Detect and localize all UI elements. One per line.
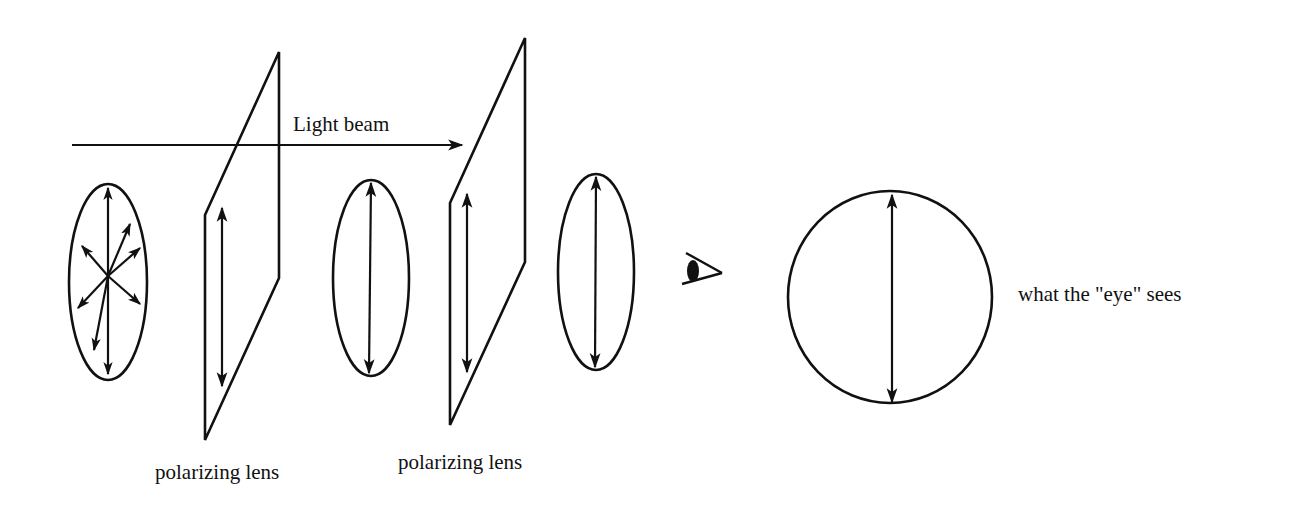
polarized-light-ellipse-1 [333,180,409,376]
light-beam-label: Light beam [293,114,389,135]
eye-sees-label: what the "eye" sees [1018,284,1182,305]
observed-view-circle [788,191,992,403]
polarizing-lens-1 [205,52,279,440]
eye-icon [682,253,722,284]
polarizing-lens-1-label: polarizing lens [155,462,279,483]
polarization-diagram: Light beam polarizing lens polarizing le… [0,0,1298,518]
polarized-light-ellipse-2 [558,174,634,370]
unpolarized-light-ellipse [69,184,147,380]
polarizing-lens-2-label: polarizing lens [398,452,522,473]
diagram-graphics [0,0,1298,518]
polarizing-lens-2 [450,38,525,425]
